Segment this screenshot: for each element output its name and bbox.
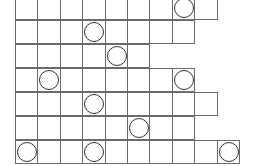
grid-cell [37, 44, 60, 68]
grid-cell [149, 140, 172, 164]
grid-cell [194, 0, 217, 20]
grid-cell [37, 0, 60, 20]
grid-cell [82, 0, 105, 20]
grid-cell [82, 68, 105, 92]
grid-cell [60, 20, 83, 44]
grid-cell [127, 68, 150, 92]
grid-cell [82, 116, 105, 140]
grid-cell [82, 20, 105, 44]
grid-cell [105, 116, 128, 140]
grid-cell [105, 44, 128, 68]
grid-cell [105, 20, 128, 44]
grid-cell [127, 116, 150, 140]
grid-cell [149, 68, 172, 92]
grid-cell [82, 140, 105, 164]
grid-row-0 [15, 0, 217, 20]
grid-row-2 [15, 44, 149, 68]
grid-cell [60, 0, 83, 20]
grid-cell [15, 116, 38, 140]
grid-cell [105, 92, 128, 116]
grid-cell [149, 92, 172, 116]
grid-cell [194, 140, 217, 164]
grid-cell [172, 140, 195, 164]
grid-cell [15, 68, 38, 92]
circle-icon [107, 46, 127, 66]
grid-row-3 [15, 68, 194, 92]
grid-row-4 [15, 92, 217, 116]
grid-cell [60, 92, 83, 116]
grid-cell [15, 20, 38, 44]
circle-icon [39, 70, 59, 90]
grid-cell [127, 92, 150, 116]
grid-cell [149, 116, 172, 140]
grid-cell [149, 20, 172, 44]
grid-cell [37, 20, 60, 44]
grid-cell [149, 0, 172, 20]
grid-cell [172, 0, 195, 20]
grid-cell [60, 44, 83, 68]
grid-cell [127, 140, 150, 164]
circle-icon [219, 142, 239, 162]
grid-cell [105, 68, 128, 92]
grid-cell [82, 92, 105, 116]
grid-cell [60, 140, 83, 164]
grid-cell [15, 44, 38, 68]
circle-icon [174, 70, 194, 90]
grid-cell [37, 68, 60, 92]
grid-cell [60, 68, 83, 92]
circle-icon [174, 0, 194, 18]
grid-cell [172, 116, 195, 140]
grid-cell [127, 44, 150, 68]
grid-cell [15, 92, 38, 116]
grid-cell [172, 92, 195, 116]
circle-icon [17, 142, 37, 162]
grid-cell [37, 116, 60, 140]
grid-cell [37, 140, 60, 164]
grid-cell [172, 68, 195, 92]
grid-cell [105, 140, 128, 164]
grid-cell [217, 140, 240, 164]
circle-icon [84, 22, 104, 42]
grid-cell [172, 20, 195, 44]
grid-row-5 [15, 116, 194, 140]
grid-cell [15, 0, 38, 20]
grid-row-6 [15, 140, 239, 164]
grid-cell [15, 140, 38, 164]
grid-cell [127, 0, 150, 20]
grid-row-1 [15, 20, 194, 44]
grid-cell [37, 92, 60, 116]
grid-cell [105, 0, 128, 20]
circle-icon [84, 94, 104, 114]
grid-cell [60, 116, 83, 140]
circle-icon [129, 118, 149, 138]
circle-icon [84, 142, 104, 162]
grid-cell [82, 44, 105, 68]
grid-cell [194, 92, 217, 116]
grid-cell [127, 20, 150, 44]
